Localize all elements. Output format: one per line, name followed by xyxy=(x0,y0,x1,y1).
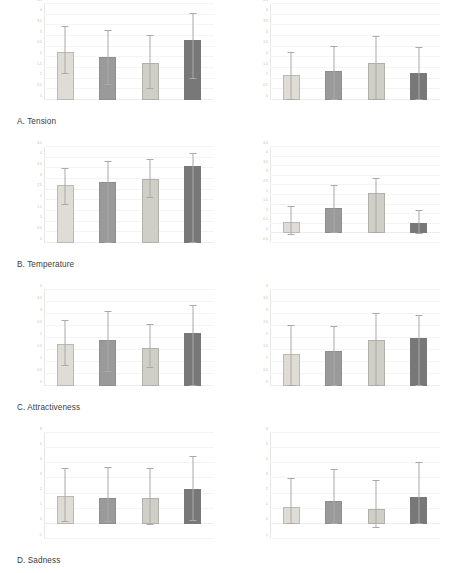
bar-group xyxy=(44,290,214,386)
error-bar-cap-lower xyxy=(288,234,295,235)
error-bar-cap-upper xyxy=(288,478,295,479)
error-bar-cap-upper xyxy=(288,325,295,326)
y-tick-label: 0 xyxy=(266,519,268,522)
error-bar-cap-lower xyxy=(288,523,295,524)
error-bar xyxy=(291,326,292,386)
y-tick-label: 1 xyxy=(40,74,42,77)
bar-group xyxy=(270,290,440,386)
y-tick-label: 2.5 xyxy=(37,42,42,45)
y-tick-label: 0.5 xyxy=(263,84,268,87)
bar-slot xyxy=(99,4,116,100)
error-bar-cap-lower xyxy=(104,521,111,522)
y-tick-label: 3 xyxy=(266,31,268,34)
bar-slot xyxy=(184,433,201,539)
bar-slot xyxy=(142,433,159,539)
bar-slot xyxy=(184,290,201,386)
panel-label-a: A. Tension xyxy=(17,117,56,126)
error-bar xyxy=(291,53,292,100)
y-tick-label: 0.5 xyxy=(263,369,268,372)
y-tick-label: 3.5 xyxy=(37,20,42,23)
plot-area: -10123456 xyxy=(44,433,214,539)
chart-c-left: 00.511.522.533.54 xyxy=(22,286,214,386)
panel-row-d: -10123456 -10123456 D. Sadness xyxy=(0,429,449,573)
error-bar xyxy=(65,169,66,204)
bar-group xyxy=(270,4,440,100)
error-bar-cap-lower xyxy=(62,204,69,205)
y-tick-label: 1 xyxy=(40,504,42,507)
error-bar-cap-upper xyxy=(62,320,69,321)
bar-slot xyxy=(283,4,300,100)
y-tick-label: 3 xyxy=(266,473,268,476)
bar-slot xyxy=(142,147,159,243)
y-tick-label: 2.5 xyxy=(263,321,268,324)
y-tick-label: 4 xyxy=(40,285,42,288)
chart-a-right: 00.511.522.533.544.5 xyxy=(248,0,440,100)
error-bar-cap-lower xyxy=(288,385,295,386)
error-bar-cap-lower xyxy=(189,242,196,243)
error-bar-cap-upper xyxy=(147,159,154,160)
bar-slot xyxy=(325,147,342,243)
error-bar xyxy=(333,47,334,100)
panel-row-c: 00.511.522.533.54 00.511.522.533.54 C. A… xyxy=(0,286,449,429)
error-bar-cap-upper xyxy=(189,456,196,457)
error-bar xyxy=(150,36,151,89)
y-tick-label: 2 xyxy=(40,195,42,198)
y-tick-label: 1.5 xyxy=(263,63,268,66)
bar-group xyxy=(270,147,440,243)
y-tick-label: 2.5 xyxy=(263,42,268,45)
y-tick-label: 2 xyxy=(40,488,42,491)
panel-label-d: D. Sadness xyxy=(17,556,60,565)
error-bar-cap-lower xyxy=(62,365,69,366)
bar-slot xyxy=(57,290,74,386)
error-bar-cap-upper xyxy=(62,26,69,27)
y-tick-label: 3 xyxy=(40,174,42,177)
y-tick-label: 1.5 xyxy=(37,63,42,66)
y-tick-label: 0 xyxy=(40,95,42,98)
error-bar-cap-lower xyxy=(189,385,196,386)
error-bar-cap-upper xyxy=(415,210,422,211)
panel-label-c: C. Attractiveness xyxy=(17,403,80,412)
bar-slot xyxy=(325,290,342,386)
error-bar xyxy=(192,14,193,79)
error-bar-cap-lower xyxy=(373,385,380,386)
y-tick-label: 4.5 xyxy=(263,142,268,145)
y-tick-label: 0.5 xyxy=(263,219,268,222)
error-bar xyxy=(107,162,108,243)
bar-group xyxy=(44,147,214,243)
bar-group xyxy=(44,433,214,539)
error-bar-cap-upper xyxy=(147,468,154,469)
y-tick-label: 1.5 xyxy=(37,206,42,209)
bar-slot xyxy=(99,290,116,386)
y-tick-label: 4.5 xyxy=(37,0,42,2)
error-bar-cap-lower xyxy=(189,520,196,521)
bar-slot xyxy=(57,147,74,243)
y-tick-label: 0 xyxy=(40,381,42,384)
y-tick-label: 1 xyxy=(40,357,42,360)
plot-area: 00.511.522.533.54 xyxy=(44,290,214,386)
y-tick-label: 1 xyxy=(40,217,42,220)
y-tick-label: 3 xyxy=(266,309,268,312)
y-tick-label: 4.5 xyxy=(263,0,268,2)
bar-slot xyxy=(283,433,300,539)
error-bar xyxy=(333,470,334,524)
bar-slot xyxy=(368,147,385,243)
error-bar xyxy=(376,481,377,528)
error-bar-cap-lower xyxy=(62,73,69,74)
y-tick-label: 3 xyxy=(40,473,42,476)
y-tick-label: 1.5 xyxy=(263,200,268,203)
y-tick-label: 3.5 xyxy=(37,163,42,166)
error-bar xyxy=(376,314,377,386)
y-tick-label: 2.5 xyxy=(263,180,268,183)
y-tick-label: 0 xyxy=(266,228,268,231)
error-bar-cap-lower xyxy=(104,84,111,85)
y-tick-label: 0 xyxy=(266,381,268,384)
y-tick-label: -0.5 xyxy=(262,238,268,241)
error-bar xyxy=(333,186,334,233)
error-bar-cap-lower xyxy=(415,99,422,100)
error-bar-cap-upper xyxy=(62,168,69,169)
bar-slot xyxy=(142,4,159,100)
bar-group xyxy=(44,4,214,100)
bar-slot xyxy=(184,147,201,243)
y-tick-label: 0 xyxy=(266,95,268,98)
error-bar-cap-upper xyxy=(330,46,337,47)
